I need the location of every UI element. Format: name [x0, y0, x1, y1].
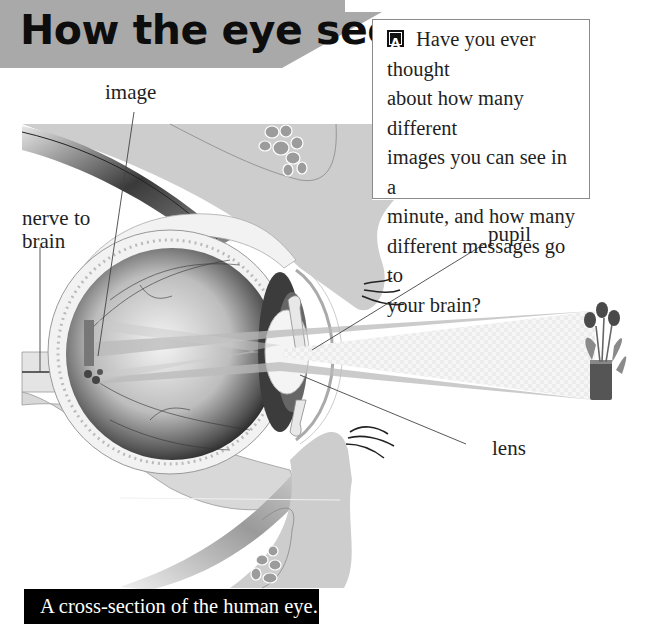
label-nerve-line1: nerve to	[22, 206, 90, 231]
label-image: image	[105, 80, 156, 105]
question-box: Have you ever thought about how many dif…	[372, 19, 590, 199]
label-lens: lens	[492, 436, 526, 461]
figure-caption: A cross-section of the human eye.	[24, 589, 319, 624]
question-line: different messages go to	[387, 232, 581, 291]
label-nerve-line2: brain	[22, 229, 65, 254]
question-line: images you can see in a	[387, 143, 581, 202]
question-line: your brain?	[387, 291, 581, 321]
page-title: How the eye sees	[20, 4, 419, 56]
question-line: about how many different	[387, 84, 581, 143]
label-pupil: pupil	[488, 222, 531, 247]
activity-icon	[387, 30, 404, 47]
question-line: Have you ever thought	[387, 25, 581, 84]
question-line: minute, and how many	[387, 202, 581, 232]
tulip-vase	[584, 302, 626, 400]
